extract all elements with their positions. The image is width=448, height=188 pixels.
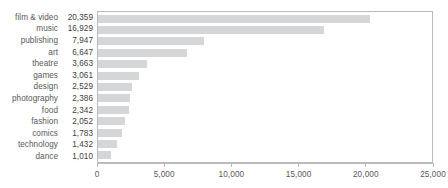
category-row: comics1,783 — [0, 128, 93, 140]
x-axis-tick-label: 25,000 — [420, 170, 446, 179]
category-value-label: 20,359 — [63, 14, 93, 22]
bar[interactable] — [98, 49, 187, 57]
category-label: music — [36, 25, 58, 33]
category-row: games3,061 — [0, 70, 93, 82]
category-label: art — [48, 49, 58, 57]
category-value-label: 6,647 — [63, 49, 93, 57]
category-row: music16,929 — [0, 24, 93, 36]
category-label: photography — [12, 95, 58, 103]
x-axis-tick — [433, 163, 434, 167]
category-value-label: 3,061 — [63, 72, 93, 80]
bar-row — [98, 47, 432, 58]
category-label: publishing — [21, 37, 58, 45]
category-label: comics — [32, 130, 58, 138]
x-axis-tick-label: 0 — [95, 170, 100, 179]
bar[interactable] — [98, 60, 147, 68]
category-row: theatre3,663 — [0, 58, 93, 70]
bar[interactable] — [98, 151, 111, 159]
category-row: art6,647 — [0, 47, 93, 59]
bar[interactable] — [98, 15, 370, 23]
category-label: dance — [35, 153, 58, 161]
bar[interactable] — [98, 26, 324, 34]
category-value-label: 16,929 — [63, 25, 93, 33]
category-row: technology1,432 — [0, 140, 93, 152]
category-row: food2,342 — [0, 105, 93, 117]
category-value-label: 1,783 — [63, 130, 93, 138]
category-value-label: 2,052 — [63, 118, 93, 126]
category-value-label: 2,342 — [63, 107, 93, 115]
bar[interactable] — [98, 117, 125, 125]
category-label: fashion — [31, 118, 58, 126]
x-axis-tick — [365, 163, 366, 167]
x-axis-tick — [164, 163, 165, 167]
category-label: theatre — [32, 60, 58, 68]
category-value-label: 2,529 — [63, 83, 93, 91]
x-axis-tick-label: 10,000 — [219, 170, 245, 179]
bar[interactable] — [98, 129, 122, 137]
x-axis: 05,00010,00015,00020,00025,000 — [97, 163, 433, 187]
bar-row — [98, 13, 432, 24]
bar-row — [98, 93, 432, 104]
category-value-label: 1,010 — [63, 153, 93, 161]
x-axis-tick-label: 20,000 — [353, 170, 379, 179]
bar-row — [98, 59, 432, 70]
bar[interactable] — [98, 94, 130, 102]
x-axis-tick — [97, 163, 98, 167]
x-axis-tick — [298, 163, 299, 167]
category-label: design — [34, 83, 58, 91]
bar-row — [98, 81, 432, 92]
bar[interactable] — [98, 37, 204, 45]
x-axis-tick-label: 15,000 — [286, 170, 312, 179]
plot-area — [97, 11, 433, 163]
bar[interactable] — [98, 106, 129, 114]
bar-row — [98, 104, 432, 115]
category-label: technology — [18, 141, 58, 149]
category-value-label: 2,386 — [63, 95, 93, 103]
category-label: film & video — [15, 14, 58, 22]
bar[interactable] — [98, 83, 132, 91]
x-axis-tick — [231, 163, 232, 167]
bar-row — [98, 127, 432, 138]
category-value-label: 1,432 — [63, 141, 93, 149]
category-label: games — [33, 72, 58, 80]
bar-row — [98, 36, 432, 47]
bar-row — [98, 24, 432, 35]
category-label-column: film & video20,359music16,929publishing7… — [0, 12, 93, 163]
bar[interactable] — [98, 72, 139, 80]
bar-series — [98, 13, 432, 161]
x-axis-tick-label: 5,000 — [154, 170, 175, 179]
category-row: publishing7,947 — [0, 35, 93, 47]
category-value-label: 3,663 — [63, 60, 93, 68]
horizontal-bar-chart: film & video20,359music16,929publishing7… — [0, 0, 448, 188]
bar-row — [98, 138, 432, 149]
bar-row — [98, 70, 432, 81]
category-row: dance1,010 — [0, 151, 93, 163]
category-label: food — [42, 107, 58, 115]
x-axis-line — [97, 163, 433, 164]
category-row: fashion2,052 — [0, 116, 93, 128]
category-value-label: 7,947 — [63, 37, 93, 45]
category-row: film & video20,359 — [0, 12, 93, 24]
bar-row — [98, 116, 432, 127]
category-row: photography2,386 — [0, 93, 93, 105]
category-row: design2,529 — [0, 82, 93, 94]
bar[interactable] — [98, 140, 117, 148]
bar-row — [98, 150, 432, 161]
